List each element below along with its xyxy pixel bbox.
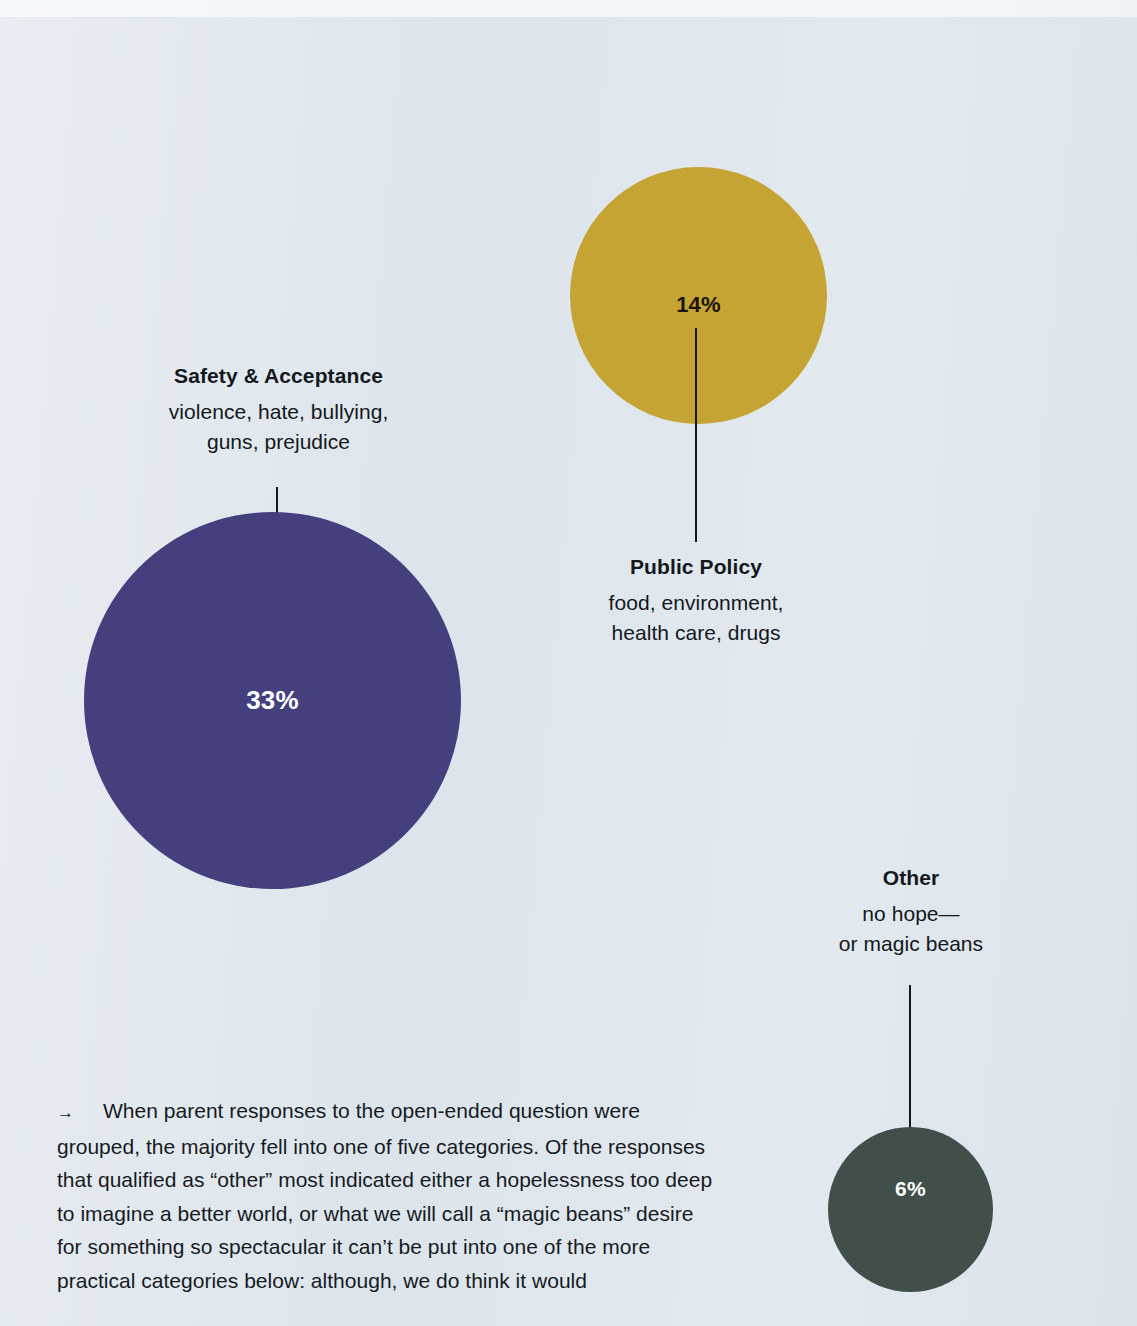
caption-other: Other no hope— or magic beans <box>800 864 1022 958</box>
caption-description-line: or magic beans <box>800 929 1022 958</box>
caption-description-line: guns, prejudice <box>106 427 451 456</box>
caption-description-safety-acceptance: violence, hate, bullying, guns, prejudic… <box>106 397 451 456</box>
infographic-canvas: Safety & Acceptance violence, hate, bull… <box>0 0 1137 1326</box>
caption-safety-acceptance: Safety & Acceptance violence, hate, bull… <box>106 362 451 456</box>
bubble-value-public-policy: 14% <box>570 292 827 318</box>
caption-description-public-policy: food, environment, health care, drugs <box>531 588 861 647</box>
caption-title-other: Other <box>800 864 1022 892</box>
caption-description-line: health care, drugs <box>531 618 861 647</box>
caption-description-line: violence, hate, bullying, <box>106 397 451 426</box>
body-paragraph: →When parent responses to the open-ended… <box>57 1094 717 1297</box>
caption-description-line: no hope— <box>800 899 1022 928</box>
bubble-value-safety-acceptance: 33% <box>84 685 461 716</box>
caption-description-line: food, environment, <box>531 588 861 617</box>
body-paragraph-text: When parent responses to the open-ended … <box>57 1099 712 1292</box>
caption-public-policy: Public Policy food, environment, health … <box>531 553 861 647</box>
caption-title-public-policy: Public Policy <box>531 553 861 581</box>
bubble-other <box>828 1127 993 1292</box>
caption-title-safety-acceptance: Safety & Acceptance <box>106 362 451 390</box>
arrow-icon: → <box>57 1096 103 1130</box>
bubble-value-other: 6% <box>828 1177 993 1201</box>
leader-line-public-policy <box>695 328 697 542</box>
caption-description-other: no hope— or magic beans <box>800 899 1022 958</box>
